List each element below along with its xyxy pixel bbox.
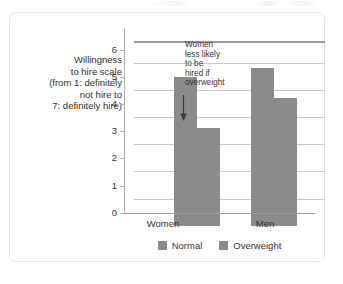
y-tick-label-4: 4 [101, 99, 117, 109]
y-tick-label-5: 5 [101, 72, 117, 82]
y-tick-mark-6 [120, 50, 124, 51]
legend: Normal Overweight [124, 240, 315, 251]
y-tick-label-2: 2 [101, 153, 117, 163]
annotation-line: hired if [185, 69, 245, 79]
y-tick-label-0: 0 [101, 208, 117, 218]
y-tick-label-6: 6 [101, 45, 117, 55]
y-tick-label-3: 3 [101, 126, 117, 136]
bar-men-overweight [274, 98, 297, 226]
y-tick-mark-4 [120, 104, 124, 105]
annotation-down-arrow-icon [179, 95, 188, 122]
annotation-line: overweight [185, 78, 245, 88]
x-tick-label-men: Men [230, 218, 300, 229]
y-axis-line [124, 28, 125, 214]
legend-item-overweight: Overweight [219, 240, 281, 251]
scan-artifact [150, 1, 330, 6]
annotation-line: less likely [185, 50, 245, 60]
y-tick-mark-1 [120, 186, 124, 187]
bar-men-normal [251, 68, 274, 226]
gridline-5 [134, 90, 325, 91]
y-tick-mark-3 [120, 131, 124, 132]
bar-women-overweight [197, 128, 220, 226]
y-tick-mark-2 [120, 158, 124, 159]
y-tick-mark-5 [120, 77, 124, 78]
y-tick-label-1: 1 [101, 181, 117, 191]
legend-item-normal: Normal [158, 240, 203, 251]
y-axis-title-line: Willingness [18, 54, 122, 66]
annotation-line: to be [185, 59, 245, 69]
annotation-label: Women less likely to be hired if overwei… [185, 40, 245, 88]
x-axis-line [124, 213, 315, 214]
legend-swatch-icon [219, 241, 228, 250]
legend-swatch-icon [158, 241, 167, 250]
y-tick-mark-0 [120, 213, 124, 214]
annotation-line: Women [185, 40, 245, 50]
x-tick-label-women: Women [128, 218, 198, 229]
legend-label-overweight: Overweight [233, 240, 281, 251]
legend-label-normal: Normal [172, 240, 203, 251]
